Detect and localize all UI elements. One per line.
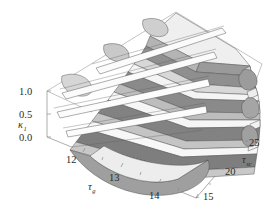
surface-plot-figure: 1.0 0.5 0.0 12 13 14 15 20 25 κ1 τg τsc — [0, 0, 268, 216]
y-axis-title-subscript: sc — [246, 160, 252, 167]
x-axis-title: τg — [88, 181, 96, 194]
x-tick-label: 12 — [66, 154, 77, 165]
z-axis-title-subscript: 1 — [24, 125, 27, 132]
z-axis-title: κ1 — [18, 119, 27, 132]
lobe-cap — [143, 18, 169, 36]
x-tick-label: 13 — [109, 172, 120, 183]
x-tick-label: 15 — [203, 191, 214, 202]
z-tick-label: 0.0 — [19, 132, 32, 143]
y-tick-label: 25 — [249, 137, 260, 148]
y-tick-label: 20 — [225, 166, 236, 177]
cap-shape — [239, 69, 257, 90]
plot-canvas: 1.0 0.5 0.0 12 13 14 15 20 25 κ1 τg τsc — [0, 0, 268, 216]
surface-right-caps — [239, 69, 259, 146]
x-axis-title-subscript: g — [92, 187, 96, 194]
z-tick-label: 1.0 — [19, 86, 32, 97]
x-tick-label: 14 — [149, 190, 160, 201]
